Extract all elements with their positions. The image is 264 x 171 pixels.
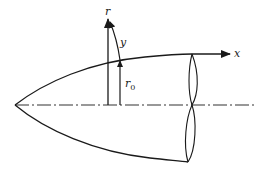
y-coord-label: y [119,36,127,49]
cross-section-ellipse-back [188,54,195,162]
diagram-canvas: r y x r0 [0,0,264,171]
r0-label-subscript: 0 [130,83,135,92]
cross-section-ellipse [185,54,197,162]
x-axis-label: x [234,47,241,60]
y-normal-coordinate-arrow [110,22,120,60]
r-axis-label: r [105,5,111,18]
body-upper-contour [15,54,192,105]
body-coordinate-diagram: r y x r0 [0,0,264,171]
body-lower-contour [15,105,188,162]
r0-label: r0 [125,77,135,92]
